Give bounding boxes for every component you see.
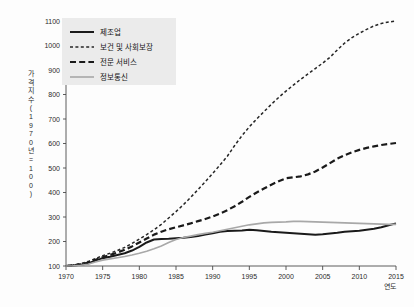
chart-legend: 제조업보건 및 사회보장전문 서비스정보통신 [62,18,176,85]
y-axis-title-char: = [29,156,33,163]
y-tick-label: 500 [48,165,60,172]
legend-label-1: 제조업 [100,28,121,37]
y-axis-title-char: 수 [28,96,35,104]
x-axis-title: 연도 [384,283,397,290]
y-tick-label: 400 [48,189,60,196]
y-axis-title-char: 년 [28,146,34,154]
y-tick-label: 100 [48,263,60,270]
y-tick-label: 600 [48,140,60,147]
x-tick-label: 1995 [242,273,258,280]
x-tick-label: 1970 [58,273,74,280]
y-axis-title-char: 격 [28,79,34,87]
y-axis-title-char: 1 [29,165,33,172]
y-axis-title-char: 지 [28,86,34,95]
x-tick-label: 1990 [205,273,221,280]
y-tick-label: 300 [48,214,60,221]
series-line-3 [66,143,396,266]
x-tick-label: 1980 [132,273,148,280]
legend-label-2: 보건 및 사회보장 [100,42,153,52]
chart-canvas: 10020030040050060070080090010001100 1970… [0,0,414,307]
x-tick-label: 2005 [315,273,331,280]
y-axis-title-char: 0 [29,173,33,180]
legend-label-4: 정보통신 [100,72,128,82]
y-tick-label: 200 [48,238,60,245]
line-chart: 10020030040050060070080090010001100 1970… [0,0,414,307]
x-tick-label: 1975 [95,273,111,280]
y-tick-label: 700 [48,116,60,123]
y-tick-label: 1100 [45,18,60,25]
y-axis-title-char: 9 [29,122,33,129]
y-axis-title-char: 7 [29,130,33,137]
x-axis-ticks: 1970197519801985199019952000200520102015 [58,266,404,280]
y-axis-title-char: 0 [29,182,33,189]
y-axis-title-char: ( [30,104,33,112]
y-axis-title-char: 1 [29,113,33,120]
x-tick-label: 2015 [388,273,404,280]
y-tick-label: 1000 [44,42,60,49]
legend-label-3: 전문 서비스 [100,57,137,67]
x-tick-label: 1985 [168,273,184,280]
y-tick-label: 800 [48,91,60,98]
x-tick-label: 2000 [278,273,294,280]
y-axis-title-char: 0 [29,139,33,146]
series-line-4 [66,221,396,266]
y-tick-label: 900 [48,67,60,74]
series-line-1 [66,223,396,266]
y-axis-title-char: 가 [28,69,35,78]
y-axis-title-char: ) [30,190,32,198]
x-tick-label: 2010 [352,273,368,280]
y-axis-title: 가격지수(1970년=100) [28,69,35,198]
